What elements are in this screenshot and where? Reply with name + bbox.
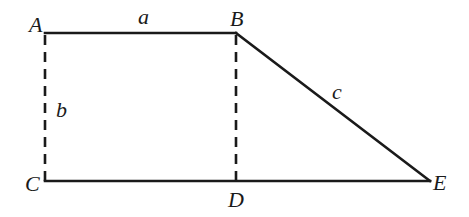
vertex-label-d: D	[227, 187, 244, 212]
side-label-b: b	[56, 97, 67, 122]
trapezoid-diagram: A B C D E a b c	[0, 0, 469, 217]
vertex-label-c: C	[25, 171, 40, 196]
vertex-label-b: B	[230, 6, 243, 31]
vertex-label-a: A	[27, 12, 43, 37]
side-label-c: c	[332, 79, 342, 104]
side-label-a: a	[138, 4, 149, 29]
vertex-label-e: E	[432, 170, 447, 195]
segment-be	[236, 33, 430, 181]
